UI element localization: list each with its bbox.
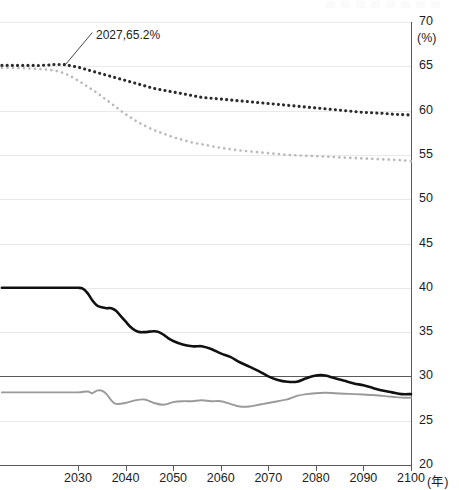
y-tick-label-20: 20 [419,458,433,471]
y-axis-unit-label: (%) [417,31,436,45]
annotation-leader-line [65,33,93,66]
x-tick-label-2080: 2080 [302,471,330,485]
x-tick-label-2060: 2060 [207,471,235,485]
series-dark-dotted-upper [2,64,411,115]
y-tick-label-25: 25 [419,414,433,427]
x-tick-label-2050: 2050 [159,471,187,485]
peak-annotation-label: 2027,65.2% [96,28,160,42]
series-light-dotted-lower [2,68,411,161]
series-layer [0,0,459,490]
series-gray-solid [2,390,411,407]
y-tick-label-60: 60 [419,104,433,117]
x-tick-label-2070: 2070 [254,471,282,485]
y-tick-label-65: 65 [419,59,433,72]
y-tick-label-45: 45 [419,237,433,250]
y-tick-label-40: 40 [419,281,433,294]
y-tick-label-30: 30 [419,369,433,382]
x-tick-label-2040: 2040 [112,471,140,485]
x-tick-label-2090: 2090 [350,471,378,485]
x-tick-label-2100: 2100 [397,471,425,485]
y-tick-label-55: 55 [419,148,433,161]
series-black-solid [2,288,411,395]
y-tick-label-70: 70 [419,15,433,28]
chart-container: (%) (年) 2027,65.2% 202530354045505560657… [0,0,459,490]
x-tick-label-2030: 2030 [64,471,92,485]
y-tick-label-50: 50 [419,192,433,205]
y-tick-label-35: 35 [419,325,433,338]
x-axis-unit-label: (年) [427,471,448,490]
